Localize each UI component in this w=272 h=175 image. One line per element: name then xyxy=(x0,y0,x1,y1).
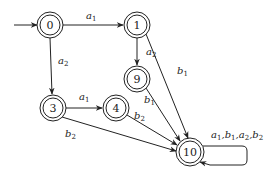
edge-label-0-1: a1 xyxy=(86,10,96,23)
state-node-4: 4 xyxy=(103,95,129,121)
edge-label-10-self-loop: a1,b1,a2,b2 xyxy=(211,129,263,142)
edge-label-4-10: b2 xyxy=(134,110,145,123)
edge-label-1-10: b1 xyxy=(177,65,188,78)
edge-label-3-4: a1 xyxy=(79,91,89,104)
edge-label-9-10: b1 xyxy=(144,94,155,107)
edge-label-1-9: a2 xyxy=(146,46,156,59)
state-label: 3 xyxy=(50,102,57,115)
edge-label-3-10: b2 xyxy=(65,128,76,141)
automaton-diagram: a1 a2 a2 b1 b1 a1 b2 b2 a1,b1,a2,b2 0 1 … xyxy=(0,0,272,175)
edge-9-10 xyxy=(146,88,180,141)
state-label: 9 xyxy=(134,73,141,86)
edge-10-self-loop xyxy=(200,146,247,165)
state-label: 4 xyxy=(113,102,120,115)
state-label: 0 xyxy=(47,19,54,32)
state-label: 1 xyxy=(134,19,141,32)
edge-1-10 xyxy=(146,34,188,138)
state-node-1: 1 xyxy=(124,12,150,38)
state-node-0: 0 xyxy=(37,12,63,38)
state-node-3: 3 xyxy=(40,95,66,121)
state-label: 10 xyxy=(183,146,197,159)
edge-label-0-3: a2 xyxy=(58,55,68,68)
edge-0-3 xyxy=(50,38,52,94)
state-node-9: 9 xyxy=(124,66,150,92)
state-node-10: 10 xyxy=(176,138,204,166)
